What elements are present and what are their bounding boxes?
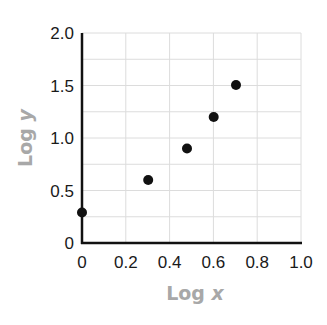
x-tick: 0 <box>77 253 86 272</box>
x-tick: 0.6 <box>202 253 226 272</box>
y-tick: 1.0 <box>50 129 74 148</box>
y-tick: 0.5 <box>50 182 74 201</box>
data-point <box>77 208 87 218</box>
x-tick: 1.0 <box>289 253 313 272</box>
y-tick: 1.5 <box>50 77 74 96</box>
x-axis-label: Log x <box>166 282 224 304</box>
data-point <box>143 175 153 185</box>
y-tick: 2.0 <box>50 24 74 43</box>
x-tick: 0.4 <box>158 253 182 272</box>
grid <box>82 33 301 243</box>
y-axis-label: Log y <box>14 108 36 167</box>
y-tick: 0 <box>65 234 74 253</box>
data-point <box>231 80 241 90</box>
x-tick: 0.8 <box>245 253 269 272</box>
x-tick: 0.2 <box>114 253 138 272</box>
scatter-chart: 0 0.5 1.0 1.5 2.0 0 0.2 0.4 0.6 0.8 1.0 … <box>0 0 327 325</box>
data-point <box>209 112 219 122</box>
x-tick-labels: 0 0.2 0.4 0.6 0.8 1.0 <box>77 253 313 272</box>
data-point <box>182 144 192 154</box>
y-tick-labels: 0 0.5 1.0 1.5 2.0 <box>50 24 74 253</box>
data-points <box>77 80 241 218</box>
